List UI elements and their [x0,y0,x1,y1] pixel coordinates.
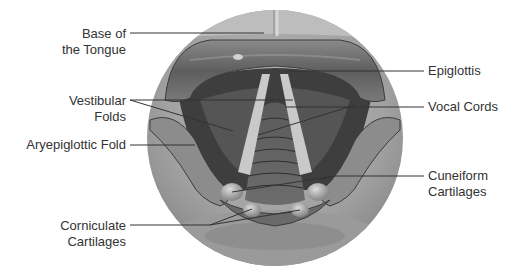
corniculate-left [243,203,261,217]
label-vestibular-folds: Vestibular Folds [69,93,126,125]
label-cuneiform-cartilages: Cuneiform Cartilages [428,168,488,200]
label-epiglottis: Epiglottis [428,63,481,79]
cuneiform-right [307,183,329,201]
label-vocal-cords: Vocal Cords [428,99,498,115]
label-corniculate-cartilages: Corniculate Cartilages [60,218,126,250]
label-aryepiglottic-fold: Aryepiglottic Fold [26,137,126,153]
label-base-of-tongue: Base of the Tongue [62,26,126,58]
